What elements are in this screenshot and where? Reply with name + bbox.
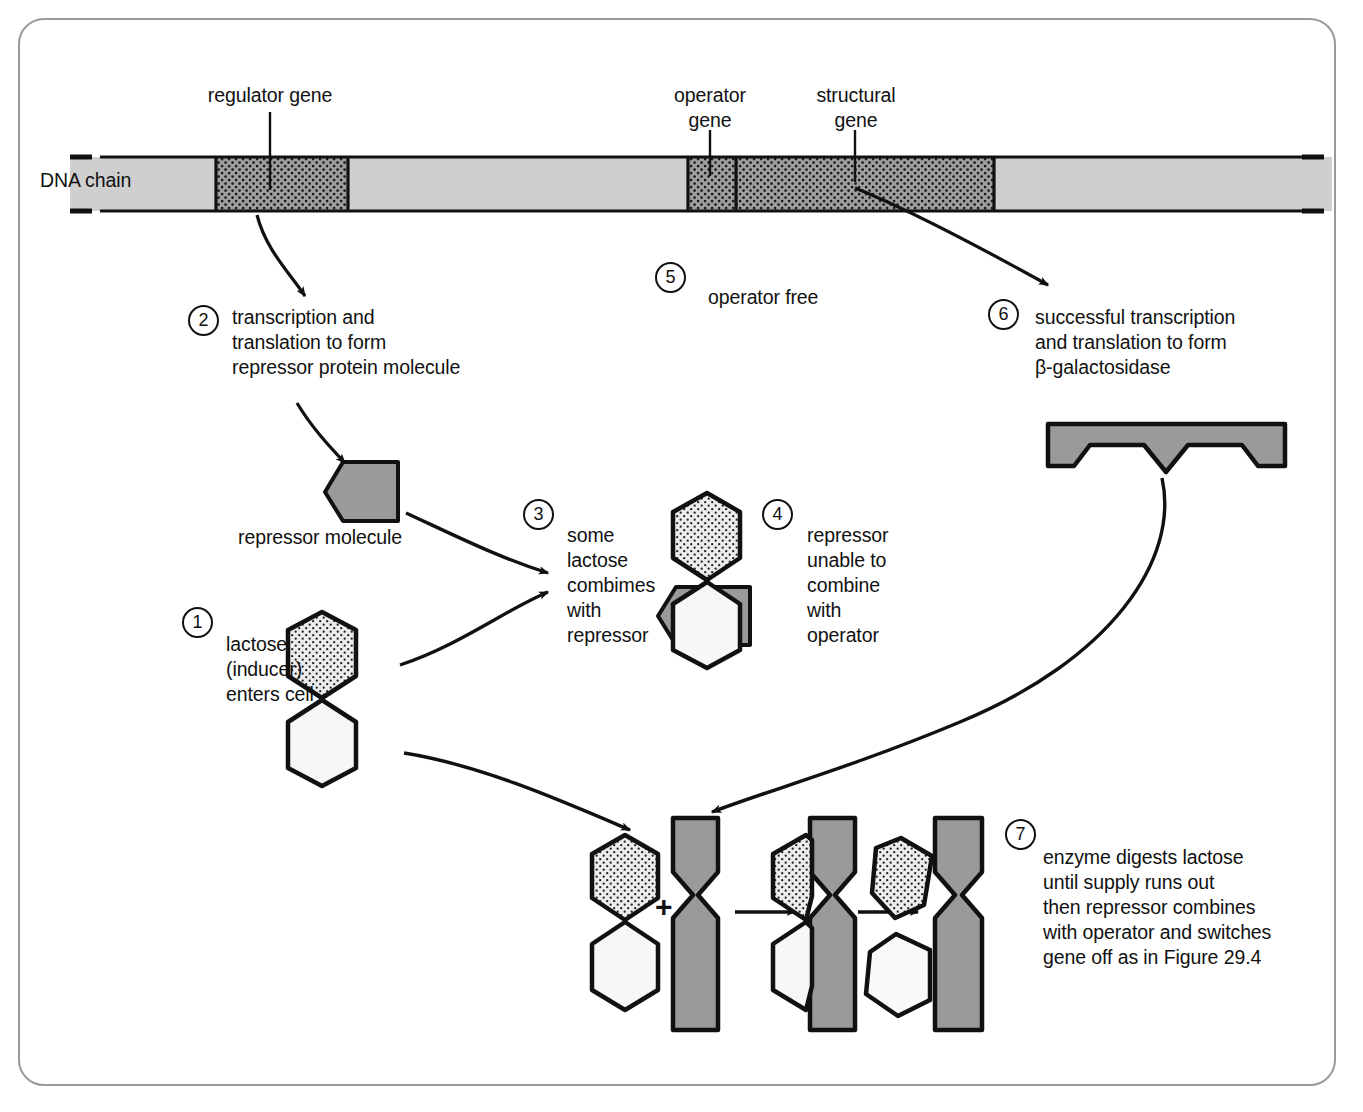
label-operator-gene-line2: gene xyxy=(645,108,775,133)
step-text-3: some lactose combimes with repressor xyxy=(567,523,655,648)
lactose-repressor-complex xyxy=(658,493,750,668)
arrow-step2-to-repressor xyxy=(297,403,345,463)
stage-a-lactose-upper xyxy=(592,835,658,920)
arrow-regulator-to-step2 xyxy=(257,215,305,296)
step-number-2: 2 xyxy=(188,305,219,336)
stage-a-lactose-lower xyxy=(592,922,658,1010)
label-repressor-molecule: repressor molecule xyxy=(238,525,402,550)
dna-segment-operator-gene xyxy=(688,157,736,211)
step-text-4: repressor unable to combine with operato… xyxy=(807,523,888,648)
step-number-6: 6 xyxy=(988,299,1019,330)
plus-sign: + xyxy=(655,890,673,924)
step-number-4: 4 xyxy=(762,499,793,530)
complex-lactose-upper-unit xyxy=(673,493,740,580)
step-number-1: 1 xyxy=(182,607,213,638)
stage-c-product-glucose xyxy=(872,838,932,918)
stage-b-enzyme xyxy=(810,818,855,1030)
complex-lactose-lower-unit xyxy=(673,582,740,668)
label-regulator-gene: regulator gene xyxy=(180,83,360,108)
label-structural-gene-line1: structural xyxy=(790,83,922,108)
step-number-3: 3 xyxy=(523,499,554,530)
step-text-2: transcription and translation to form re… xyxy=(232,305,460,380)
arrow-lactose-to-step3 xyxy=(400,592,548,665)
label-structural-gene-line2: gene xyxy=(790,108,922,133)
reaction-stage-a xyxy=(592,818,718,1030)
beta-galactosidase-enzyme xyxy=(1048,424,1285,472)
step-text-6: successful transcription and translation… xyxy=(1035,305,1235,380)
dna-chain xyxy=(70,157,1332,211)
lac-operon-figure: DNA chain regulator gene operator gene s… xyxy=(0,0,1363,1112)
step-text-1: lactose (inducer) enters cell xyxy=(226,632,314,707)
step-text-5: operator free xyxy=(708,285,818,310)
stage-b-lactose-lower xyxy=(773,922,812,1010)
stage-a-enzyme xyxy=(673,818,718,1030)
reaction-stage-b xyxy=(773,818,855,1030)
stage-b-lactose-upper xyxy=(773,835,812,920)
stage-c-enzyme xyxy=(935,818,982,1030)
reaction-stage-c xyxy=(866,818,982,1030)
label-operator-gene-line1: operator xyxy=(645,83,775,108)
dna-segment-structural-gene xyxy=(736,157,994,211)
step-number-7: 7 xyxy=(1005,819,1036,850)
lactose-lower-unit xyxy=(288,700,356,786)
dna-chain-label: DNA chain xyxy=(40,168,131,193)
repressor-molecule-shape xyxy=(325,462,398,521)
stage-c-product-galactose xyxy=(866,934,930,1016)
step-number-5: 5 xyxy=(655,262,686,293)
arrow-lactose-to-complex xyxy=(404,753,630,830)
step-text-7: enzyme digests lactose until supply runs… xyxy=(1043,845,1271,970)
dna-segment-regulator-gene xyxy=(216,157,348,211)
